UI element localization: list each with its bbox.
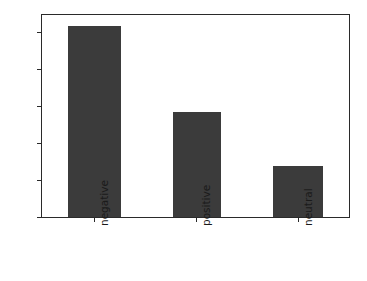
x-tick-mark <box>196 218 197 222</box>
bar-negative <box>68 26 121 217</box>
bar-neutral <box>273 166 323 217</box>
x-tick-label: neutral <box>302 188 314 226</box>
bar-chart-figure: 0 100 200 300 400 500 negat <box>0 0 367 281</box>
bar-positive <box>173 112 221 217</box>
x-tick-label: negative <box>98 180 110 226</box>
x-tick-mark <box>298 218 299 222</box>
x-tick-label: positive <box>200 185 212 226</box>
plot-area <box>41 14 350 218</box>
x-tick-mark <box>94 218 95 222</box>
